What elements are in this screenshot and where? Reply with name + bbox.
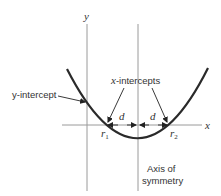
x-intercepts-label: x-intercepts bbox=[110, 74, 160, 86]
y-intercept-label: y-intercept bbox=[12, 89, 57, 100]
root1-label: r1 bbox=[101, 127, 109, 141]
x-axis-label: x bbox=[204, 119, 210, 131]
parabola-diagram: y x y-intercept x-intercepts d d r1 r2 A… bbox=[0, 0, 221, 196]
y-axis-label: y bbox=[83, 10, 89, 22]
axis-of-symmetry-label-line2: symmetry bbox=[142, 175, 183, 186]
distance-label-right: d bbox=[150, 110, 156, 122]
axis-of-symmetry-label-line1: Axis of bbox=[147, 163, 176, 174]
y-intercept-arrow bbox=[58, 96, 85, 102]
distance-label-left: d bbox=[119, 110, 125, 122]
root2-label: r2 bbox=[170, 127, 178, 141]
